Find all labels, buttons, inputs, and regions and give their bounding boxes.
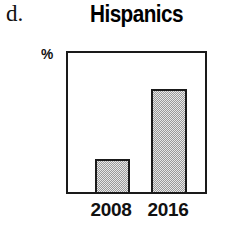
- x-tick-label-2016: 2016: [142, 199, 194, 221]
- panel-letter: d.: [6, 1, 23, 27]
- chart-title: Hispanics: [73, 0, 200, 28]
- bar-chart-figure: d. Hispanics % 2008 2016: [0, 0, 233, 240]
- y-axis-unit-label: %: [41, 45, 53, 63]
- x-tick-label-2008: 2008: [85, 199, 137, 221]
- bar-2016: [151, 89, 187, 192]
- bar-2008: [95, 159, 130, 192]
- plot-frame: [66, 51, 207, 194]
- plot-area: [68, 53, 205, 192]
